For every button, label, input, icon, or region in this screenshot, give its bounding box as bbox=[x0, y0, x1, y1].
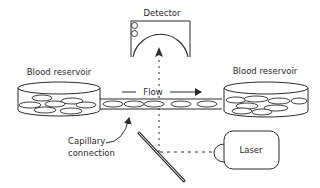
blood-reservoir-left: Blood reservoir bbox=[18, 67, 100, 116]
capillary-channel bbox=[100, 99, 222, 109]
blood-reservoir-right: Blood reservoir bbox=[224, 66, 308, 117]
reservoir-left-label: Blood reservoir bbox=[27, 67, 92, 77]
mirror bbox=[139, 133, 184, 181]
reservoir-right-label: Blood reservoir bbox=[233, 66, 298, 76]
capillary-connection-callout: Capillary connection bbox=[68, 118, 129, 158]
laser: Laser bbox=[214, 131, 279, 169]
detector-label: Detector bbox=[143, 8, 181, 18]
detector-lens-icon bbox=[132, 23, 138, 29]
flow-cytometry-diagram: Detector Blood reservoir bbox=[0, 0, 320, 188]
capillary-label-line2: connection bbox=[68, 148, 115, 158]
detector-lens-icon bbox=[132, 31, 138, 37]
laser-aperture bbox=[214, 144, 224, 162]
capillary-label-line1: Capillary bbox=[68, 136, 105, 146]
arrow-up-icon bbox=[155, 47, 163, 57]
laser-label: Laser bbox=[239, 145, 263, 155]
detector: Detector bbox=[131, 8, 190, 57]
flow-indicator: Flow bbox=[122, 87, 201, 97]
curved-arrow-icon bbox=[106, 118, 129, 143]
flow-label: Flow bbox=[143, 87, 162, 97]
